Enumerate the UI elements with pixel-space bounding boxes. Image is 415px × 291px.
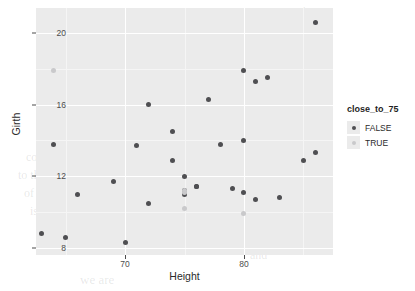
data-point <box>146 102 151 107</box>
x-tick-label: 70 <box>105 259 145 269</box>
data-point <box>265 75 270 80</box>
plot-panel <box>36 8 333 255</box>
data-point <box>146 201 151 206</box>
gridline-y-minor <box>36 140 333 141</box>
data-point <box>194 184 199 189</box>
gridline-y-major <box>36 248 333 249</box>
x-tick-mark <box>125 255 126 259</box>
data-point <box>206 97 211 102</box>
y-axis-label: Girth <box>10 94 22 154</box>
data-point <box>39 231 44 236</box>
data-point <box>51 68 56 73</box>
data-point <box>63 235 68 240</box>
scatter-plot: Girth Height close_to_75 FALSETRUE 81216… <box>0 0 415 291</box>
legend-items: FALSETRUE <box>347 120 399 150</box>
data-point <box>75 192 80 197</box>
data-point <box>170 158 175 163</box>
x-axis-label: Height <box>36 270 333 282</box>
data-point <box>51 142 56 147</box>
legend-item-false[interactable]: FALSE <box>347 120 399 135</box>
data-point <box>277 195 282 200</box>
gridline-x-minor <box>303 8 304 255</box>
data-point <box>313 20 318 25</box>
data-point <box>241 190 246 195</box>
x-tick-label: 80 <box>224 259 264 269</box>
data-point <box>241 211 246 216</box>
data-point <box>170 129 175 134</box>
y-tick-mark <box>32 247 36 248</box>
data-point <box>134 143 139 148</box>
data-point <box>182 206 187 211</box>
legend-dot-icon <box>352 126 356 130</box>
gridline-x-major <box>244 8 245 255</box>
data-point <box>241 138 246 143</box>
gridline-y-minor <box>36 212 333 213</box>
x-tick-mark <box>244 255 245 259</box>
data-point <box>241 68 246 73</box>
gridline-y-major <box>36 105 333 106</box>
data-point <box>313 150 318 155</box>
y-tick-mark <box>32 104 36 105</box>
data-point <box>253 79 258 84</box>
data-point <box>253 197 258 202</box>
legend-title: close_to_75 <box>347 104 399 114</box>
legend: close_to_75 FALSETRUE <box>347 104 399 150</box>
legend-item-label: FALSE <box>365 123 391 133</box>
legend-key-swatch <box>347 136 360 149</box>
gridline-x-minor <box>66 8 67 255</box>
gridline-x-minor <box>185 8 186 255</box>
y-tick-mark <box>32 176 36 177</box>
data-point <box>182 174 187 179</box>
gridline-y-major <box>36 33 333 34</box>
legend-dot-icon <box>352 141 356 145</box>
data-point <box>123 240 128 245</box>
y-tick-mark <box>32 33 36 34</box>
data-point <box>301 158 306 163</box>
gridline-y-minor <box>36 69 333 70</box>
legend-item-true[interactable]: TRUE <box>347 135 399 150</box>
legend-key-swatch <box>347 121 360 134</box>
data-point <box>230 186 235 191</box>
gridline-x-major <box>125 8 126 255</box>
legend-item-label: TRUE <box>365 138 388 148</box>
data-point <box>111 179 116 184</box>
data-point <box>218 142 223 147</box>
